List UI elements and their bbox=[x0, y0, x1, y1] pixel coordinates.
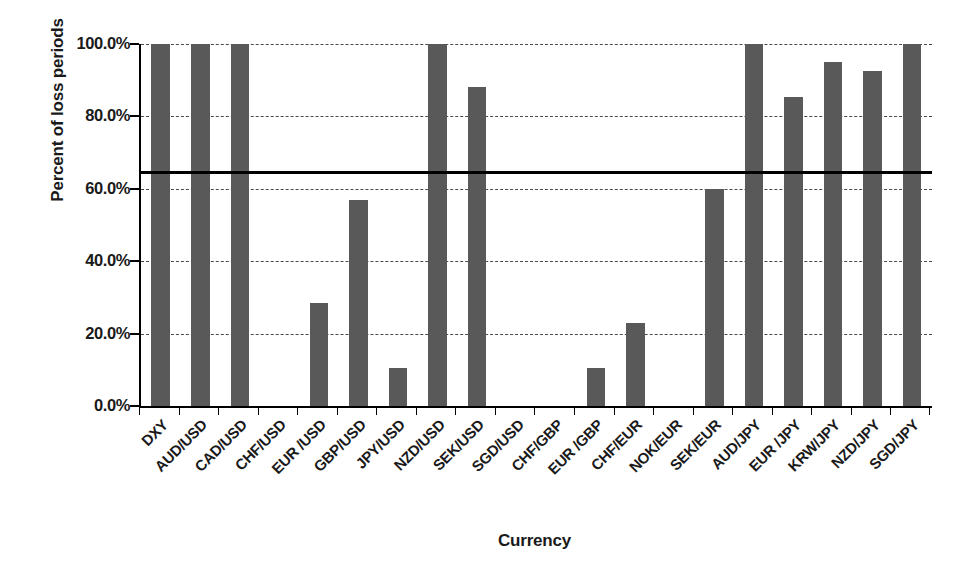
plot-area bbox=[139, 44, 932, 408]
bars-container bbox=[141, 44, 932, 406]
x-axis-tick-mark bbox=[772, 406, 812, 415]
x-axis-tick-mark bbox=[614, 406, 654, 415]
x-axis-tick-mark bbox=[376, 406, 416, 415]
bar[interactable] bbox=[191, 44, 210, 406]
y-axis-tick-mark bbox=[130, 43, 139, 45]
bar[interactable] bbox=[349, 200, 368, 406]
bar[interactable] bbox=[784, 97, 803, 407]
bar[interactable] bbox=[231, 44, 250, 406]
bar-slot[interactable] bbox=[536, 44, 576, 406]
bar-slot[interactable] bbox=[576, 44, 616, 406]
bar[interactable] bbox=[824, 62, 843, 406]
bar-slot[interactable] bbox=[141, 44, 181, 406]
x-axis-ticks bbox=[139, 406, 930, 415]
bar-slot[interactable] bbox=[339, 44, 379, 406]
bar-slot[interactable] bbox=[655, 44, 695, 406]
bar-slot[interactable] bbox=[220, 44, 260, 406]
bar-chart: Percent of loss periods 100.0%80.0%60.0%… bbox=[0, 0, 976, 573]
bar-slot[interactable] bbox=[616, 44, 656, 406]
bar-slot[interactable] bbox=[892, 44, 932, 406]
x-axis-tick-mark bbox=[811, 406, 851, 415]
x-axis-tick-mark bbox=[851, 406, 891, 415]
bar[interactable] bbox=[587, 368, 606, 406]
x-axis-tick-mark bbox=[179, 406, 219, 415]
bar[interactable] bbox=[310, 303, 329, 406]
x-axis-tick-mark bbox=[455, 406, 495, 415]
y-axis-tick-labels: 100.0%80.0%60.0%40.0%20.0%0.0% bbox=[48, 0, 130, 573]
x-axis-tick-mark bbox=[574, 406, 614, 415]
y-axis-tick-label: 100.0% bbox=[48, 35, 130, 52]
y-axis-tick-label: 20.0% bbox=[48, 325, 130, 342]
x-axis-tick-mark bbox=[297, 406, 337, 415]
bar-slot[interactable] bbox=[813, 44, 853, 406]
y-axis-tick-mark bbox=[130, 115, 139, 117]
bar[interactable] bbox=[389, 368, 408, 406]
x-axis-tick-mark bbox=[890, 406, 930, 415]
x-axis-tick-mark bbox=[218, 406, 258, 415]
bar-slot[interactable] bbox=[497, 44, 537, 406]
bar-slot[interactable] bbox=[457, 44, 497, 406]
bar-slot[interactable] bbox=[260, 44, 300, 406]
bar-slot[interactable] bbox=[853, 44, 893, 406]
bar[interactable] bbox=[151, 44, 170, 406]
y-axis-tick-label: 60.0% bbox=[48, 180, 130, 197]
bar-slot[interactable] bbox=[418, 44, 458, 406]
bar[interactable] bbox=[626, 323, 645, 406]
x-axis-tick-mark bbox=[534, 406, 574, 415]
x-axis-tick-mark bbox=[732, 406, 772, 415]
x-axis-tick-mark bbox=[337, 406, 377, 415]
bar[interactable] bbox=[903, 44, 922, 406]
x-axis-tick-mark bbox=[929, 406, 930, 415]
bar[interactable] bbox=[863, 71, 882, 406]
bar-slot[interactable] bbox=[299, 44, 339, 406]
bar[interactable] bbox=[468, 87, 487, 406]
x-axis-tick-mark bbox=[139, 406, 179, 415]
x-axis-tick-mark bbox=[653, 406, 693, 415]
bar-slot[interactable] bbox=[181, 44, 221, 406]
bar[interactable] bbox=[745, 44, 764, 406]
y-axis-tick-mark bbox=[130, 188, 139, 190]
x-axis-tick-mark bbox=[416, 406, 456, 415]
x-axis-tick-mark bbox=[258, 406, 298, 415]
bar-slot[interactable] bbox=[774, 44, 814, 406]
x-axis-tick-mark bbox=[693, 406, 733, 415]
x-axis-tick-mark bbox=[495, 406, 535, 415]
y-axis-tick-mark bbox=[130, 405, 139, 407]
bar-slot[interactable] bbox=[695, 44, 735, 406]
x-axis-tick-label-text: DXY bbox=[138, 416, 171, 449]
y-axis-tick-mark bbox=[130, 260, 139, 262]
y-axis-tick-mark bbox=[130, 333, 139, 335]
reference-line bbox=[141, 171, 932, 174]
x-axis-title: Currency bbox=[139, 531, 930, 551]
bar-slot[interactable] bbox=[734, 44, 774, 406]
bar[interactable] bbox=[705, 189, 724, 406]
bar[interactable] bbox=[428, 44, 447, 406]
y-axis-tick-label: 40.0% bbox=[48, 252, 130, 269]
bar-slot[interactable] bbox=[378, 44, 418, 406]
y-axis-tick-label: 0.0% bbox=[48, 397, 130, 414]
y-axis-tick-label: 80.0% bbox=[48, 107, 130, 124]
